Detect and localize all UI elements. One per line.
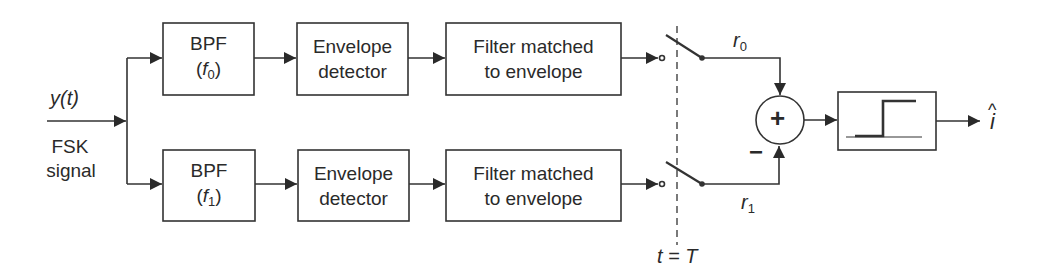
envelope-detector0-label: Envelope detector bbox=[297, 23, 408, 95]
mf0-line2: to envelope bbox=[484, 59, 582, 84]
bpf0-title: BPF bbox=[190, 31, 227, 56]
minus-sign-label: − bbox=[749, 140, 763, 164]
r0-label: r0 bbox=[733, 28, 747, 59]
switch1-contact-icon bbox=[660, 182, 665, 187]
r1-sub: 1 bbox=[748, 201, 755, 216]
bpf0-label: BPF (f0) bbox=[163, 23, 254, 95]
switch0-contact-icon bbox=[660, 56, 665, 61]
bpf1-title: BPF bbox=[191, 158, 228, 183]
r0-sub: 0 bbox=[740, 39, 747, 54]
bpf0-frequency: (f0) bbox=[196, 56, 221, 87]
r0-path bbox=[702, 58, 780, 95]
bpf1-label: BPF (f1) bbox=[163, 150, 255, 221]
envelope-detector1-label: Envelope detector bbox=[298, 150, 409, 221]
matched-filter1-label: Filter matched to envelope bbox=[446, 150, 621, 221]
input-type-label-line1: FSK bbox=[40, 135, 100, 159]
r1-path bbox=[702, 146, 779, 184]
bpf1-frequency: (f1) bbox=[196, 183, 221, 214]
freq-sub: 0 bbox=[208, 67, 215, 82]
env0-line1: Envelope bbox=[313, 34, 392, 59]
env1-line1: Envelope bbox=[314, 161, 393, 186]
mf1-line1: Filter matched bbox=[473, 161, 593, 186]
paren-close: ) bbox=[215, 185, 221, 206]
matched-filter0-label: Filter matched to envelope bbox=[446, 23, 621, 95]
mf1-line2: to envelope bbox=[484, 186, 582, 211]
switch0-blade-icon bbox=[666, 35, 702, 58]
r1-label: r1 bbox=[741, 190, 755, 221]
r1-var: r bbox=[741, 191, 748, 213]
switch1-blade-icon bbox=[666, 162, 702, 184]
summer-plus-symbol: + bbox=[770, 106, 785, 130]
mf0-line1: Filter matched bbox=[473, 34, 593, 59]
output-estimate-label: i bbox=[990, 110, 995, 134]
env1-line2: detector bbox=[319, 186, 388, 211]
input-signal-label: y(t) bbox=[50, 86, 79, 110]
r0-var: r bbox=[733, 29, 740, 51]
paren-close: ) bbox=[215, 58, 221, 79]
input-type-label-line2: signal bbox=[36, 159, 106, 183]
sampling-time-label: t = T bbox=[657, 244, 698, 268]
step-threshold-icon bbox=[855, 101, 916, 136]
env0-line2: detector bbox=[318, 59, 387, 84]
